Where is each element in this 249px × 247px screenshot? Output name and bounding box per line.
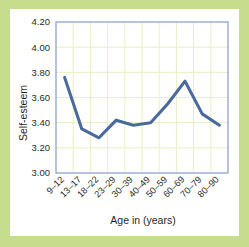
y-axis-tick-label: 3.20 <box>32 142 51 153</box>
chart-card: 4.204.003.803.603.403.203.00 9–1213–1718… <box>10 9 239 236</box>
figure-frame: 4.204.003.803.603.403.203.00 9–1213–1718… <box>0 0 249 247</box>
y-axis-tick-label: 4.00 <box>32 42 51 53</box>
chart-canvas: 4.204.003.803.603.403.203.00 9–1213–1718… <box>10 9 239 236</box>
y-axis-tick-labels: 4.204.003.803.603.403.203.00 <box>32 16 51 178</box>
y-axis-tick-label: 4.20 <box>32 16 51 27</box>
y-axis-tick-label: 3.00 <box>32 167 51 178</box>
x-axis-tick-labels: 9–1213–1718–2223–2930–3940–4950–5960–697… <box>44 174 220 199</box>
y-axis-tick-label: 3.60 <box>32 92 51 103</box>
y-axis-title: Self-esteem <box>17 85 29 141</box>
gridlines <box>56 22 228 173</box>
x-axis-title: Age in (years) <box>110 214 175 226</box>
y-axis-tick-label: 3.80 <box>32 67 51 78</box>
line-chart: 4.204.003.803.603.403.203.00 9–1213–1718… <box>10 9 239 236</box>
y-axis-tick-label: 3.40 <box>32 117 51 128</box>
